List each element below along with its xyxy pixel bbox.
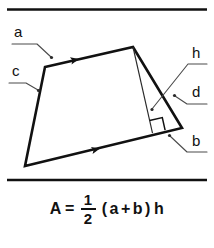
label-d-leader <box>175 96 207 104</box>
formula-term-a: a <box>110 201 119 217</box>
label-h-anchor-dot <box>150 108 153 111</box>
formula-lhs: A <box>50 201 62 217</box>
formula-parenthetical: ( a + b ) <box>102 201 151 217</box>
label-d-anchor-dot <box>173 94 176 97</box>
formula-plus: + <box>121 201 131 217</box>
fraction-numerator: 1 <box>84 192 93 208</box>
label-c-leader <box>9 83 38 90</box>
label-a-leader <box>12 44 51 57</box>
label-c-group: c <box>9 62 40 92</box>
formula-fraction: 1 2 <box>81 192 96 226</box>
label-c: c <box>12 62 20 79</box>
area-formula: A = 1 2 ( a + b ) h <box>0 192 214 226</box>
label-h: h <box>192 44 200 61</box>
label-b-anchor-dot <box>168 134 171 137</box>
label-b-group: b <box>168 132 207 152</box>
label-h-group: h <box>150 44 207 111</box>
label-d-group: d <box>173 83 207 104</box>
label-d: d <box>192 83 200 100</box>
formula-open-paren: ( <box>102 201 108 217</box>
label-c-anchor-dot <box>37 89 40 92</box>
trapezoid-outline <box>25 47 182 166</box>
label-a-anchor-dot <box>50 56 53 59</box>
label-b: b <box>192 132 200 149</box>
formula-close-paren: ) <box>145 201 151 217</box>
label-a-group: a <box>12 23 53 59</box>
formula-equals: = <box>65 201 75 217</box>
label-a: a <box>14 23 23 40</box>
formula-term-h: h <box>154 201 164 217</box>
label-b-leader <box>170 136 207 152</box>
fraction-denominator: 2 <box>84 210 93 226</box>
formula-term-b: b <box>133 201 143 217</box>
